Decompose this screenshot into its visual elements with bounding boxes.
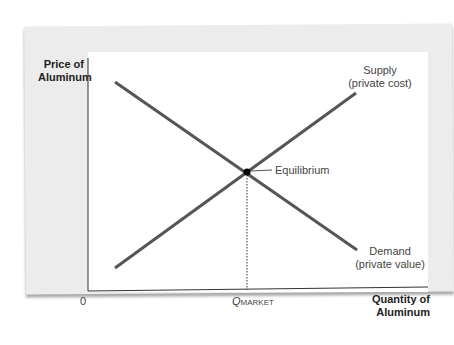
origin-label: 0 [80, 295, 86, 308]
equilibrium-leader [251, 170, 272, 171]
y-axis-label: Price of Aluminum [38, 58, 84, 84]
equilibrium-point [244, 169, 251, 176]
equilibrium-label: Equilibrium [275, 164, 329, 177]
q-market-label: QMARKET [232, 295, 274, 309]
x-axis-label: Quantity of Aluminum [350, 293, 430, 319]
x-axis [88, 287, 428, 291]
supply-label: Supply (private cost) [340, 64, 420, 90]
supply-curve [115, 93, 356, 268]
demand-label: Demand (private value) [350, 245, 430, 271]
